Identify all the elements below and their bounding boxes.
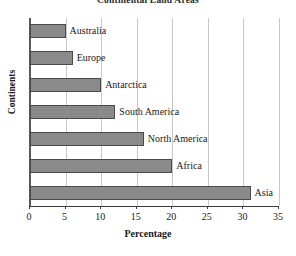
gridline-35 xyxy=(279,18,280,206)
bar-row: Antarctica xyxy=(30,72,279,99)
x-tick-label-0: 0 xyxy=(27,211,32,222)
bar-south-america xyxy=(30,105,115,119)
bar-label-europe: Europe xyxy=(77,53,106,63)
x-tick-mark-20 xyxy=(171,206,172,209)
bar-row: South America xyxy=(30,99,279,126)
bar-australia xyxy=(30,24,66,38)
bar-label-africa: Africa xyxy=(176,161,202,171)
x-tick-label-20: 20 xyxy=(166,211,176,222)
bar-series: AustraliaEuropeAntarcticaSouth AmericaNo… xyxy=(30,18,279,206)
x-tick-mark-5 xyxy=(65,206,66,209)
y-axis-title: Continents xyxy=(7,60,17,124)
bar-label-antarctica: Antarctica xyxy=(105,80,147,90)
x-axis-title: Percentage xyxy=(0,228,296,239)
bar-row: Asia xyxy=(30,179,279,206)
x-axis-line xyxy=(29,206,278,207)
bar-row: North America xyxy=(30,125,279,152)
bar-label-australia: Australia xyxy=(70,26,107,36)
bar-africa xyxy=(30,159,172,173)
bar-asia xyxy=(30,186,251,200)
x-tick-mark-35 xyxy=(278,206,279,209)
x-tick-label-25: 25 xyxy=(202,211,212,222)
bar-antarctica xyxy=(30,78,101,92)
x-tick-mark-0 xyxy=(29,206,30,209)
bar-label-north-america: North America xyxy=(148,134,208,144)
x-tick-mark-10 xyxy=(100,206,101,209)
chart-screenshot: Continental Land Areas Continents Austra… xyxy=(0,0,296,256)
x-tick-label-15: 15 xyxy=(131,211,141,222)
x-tick-label-35: 35 xyxy=(273,211,283,222)
x-tick-label-5: 5 xyxy=(62,211,67,222)
bar-row: Africa xyxy=(30,152,279,179)
x-tick-mark-30 xyxy=(242,206,243,209)
bar-row: Australia xyxy=(30,18,279,45)
x-tick-mark-25 xyxy=(207,206,208,209)
chart-title: Continental Land Areas xyxy=(0,0,296,5)
plot-area: AustraliaEuropeAntarcticaSouth AmericaNo… xyxy=(29,18,279,206)
x-tick-mark-15 xyxy=(136,206,137,209)
x-tick-label-10: 10 xyxy=(95,211,105,222)
bar-row: Europe xyxy=(30,45,279,72)
bar-north-america xyxy=(30,132,144,146)
bar-label-asia: Asia xyxy=(255,188,273,198)
bar-europe xyxy=(30,51,73,65)
bar-label-south-america: South America xyxy=(119,107,179,117)
x-tick-label-30: 30 xyxy=(237,211,247,222)
